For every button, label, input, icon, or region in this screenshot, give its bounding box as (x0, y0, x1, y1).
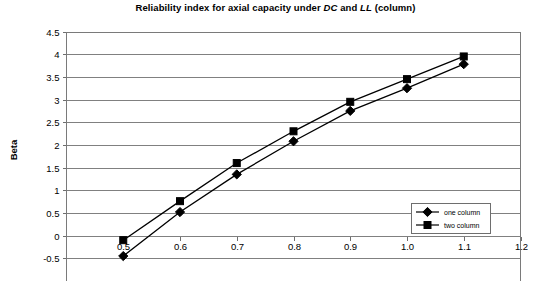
y-tick-label: 2 (54, 140, 59, 151)
y-tick-label: 4.5 (46, 27, 59, 38)
y-tick-label: 1.5 (46, 163, 59, 174)
y-axis-title: Beta (8, 139, 19, 160)
data-point-one-column (402, 84, 411, 93)
y-tick-label: 1 (54, 185, 59, 196)
x-tick-label: 0.7 (231, 241, 244, 252)
chart-figure: Reliability index for axial capacity und… (0, 0, 551, 282)
chart-legend: one columntwo column (412, 204, 491, 234)
legend-label-0: one column (444, 209, 480, 216)
x-tick-label: 0.6 (174, 241, 187, 252)
x-tick-label: 1.1 (458, 241, 471, 252)
y-tick-label: 2.5 (46, 117, 59, 128)
data-point-two-column (404, 76, 411, 83)
x-tick-label: 1.2 (515, 241, 528, 252)
data-point-two-column (120, 237, 127, 244)
legend-marker-square (424, 222, 431, 229)
plot-area: 4.543.532.521.510.50-0.5 0.50.60.70.80.9… (0, 0, 551, 282)
y-tick-label: 0.5 (46, 208, 59, 219)
data-point-one-column (289, 137, 298, 146)
y-axis-tick-labels: 4.543.532.521.510.50-0.5 (43, 27, 59, 264)
data-point-one-column (459, 60, 468, 69)
data-point-two-column (347, 98, 354, 105)
data-point-one-column (232, 170, 241, 179)
legend-label-1: two column (444, 222, 480, 229)
y-tick-label: 3 (54, 95, 59, 106)
x-axis-tick-labels: 0.50.60.70.80.91.01.11.2 (117, 241, 528, 252)
y-tick-label: 0 (54, 231, 59, 242)
x-tick-label: 0.9 (344, 241, 357, 252)
data-point-two-column (177, 198, 184, 205)
data-point-one-column (346, 106, 355, 115)
y-tick-label: 4 (54, 49, 59, 60)
data-point-two-column (233, 160, 240, 167)
x-tick-label: 0.8 (288, 241, 301, 252)
y-tick-label: 3.5 (46, 72, 59, 83)
data-point-two-column (290, 128, 297, 135)
y-tick-label: -0.5 (43, 253, 59, 264)
x-tick-label: 1.0 (401, 241, 414, 252)
data-point-two-column (460, 53, 467, 60)
